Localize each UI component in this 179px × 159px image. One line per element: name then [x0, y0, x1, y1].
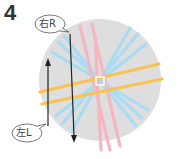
left-label: 左L [16, 128, 32, 138]
right-label: 右R [39, 19, 56, 29]
